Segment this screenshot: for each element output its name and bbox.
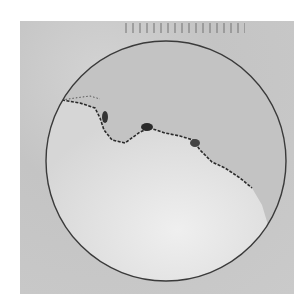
dish-illustration [0, 0, 307, 305]
dish-interior [40, 35, 300, 300]
dark-spot [102, 111, 108, 123]
dark-spot [190, 139, 200, 147]
dark-spot [141, 123, 153, 131]
